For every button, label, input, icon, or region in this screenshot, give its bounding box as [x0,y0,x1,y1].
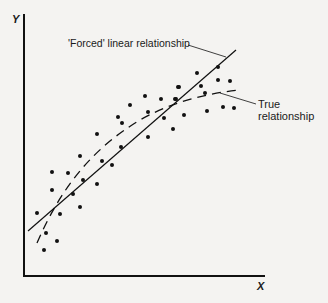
data-point [159,97,163,101]
data-point [173,97,177,101]
data-point [100,159,104,163]
forced-label: 'Forced' linear relationship [68,37,190,49]
data-point [58,212,62,216]
data-point [35,211,39,215]
data-point [95,182,99,186]
data-point [78,205,82,209]
data-point [95,132,99,136]
data-point [110,163,114,167]
y-axis-label: Y [12,13,21,25]
data-point [216,65,220,69]
true-label-line1: True [258,98,280,110]
data-point [66,171,70,175]
true-relationship-curve [37,90,241,243]
data-point [205,109,209,113]
data-point [71,192,75,196]
data-point [116,115,120,119]
data-point [119,145,123,149]
scatter-diagram: Y X 'Forced' linear relationship True re… [0,0,328,303]
forced-linear-line [28,50,236,231]
data-point [42,248,46,252]
forced-leader-line [188,45,226,57]
data-point [50,188,54,192]
data-point [176,85,180,89]
true-leader-line [220,93,256,104]
data-point [55,239,59,243]
data-point [182,113,186,117]
x-axis-label: X [256,280,265,292]
data-point [128,103,132,107]
data-point [171,127,175,131]
data-point [199,84,203,88]
data-point [81,178,85,182]
data-point [50,170,54,174]
true-label-line2: relationship [258,110,314,122]
data-point [203,91,207,95]
data-point [120,121,124,125]
data-point [228,79,232,83]
data-point [146,110,150,114]
data-point [162,116,166,120]
data-point [44,231,48,235]
data-point [232,106,236,110]
data-point [195,71,199,75]
data-point [216,78,220,82]
data-point [221,105,225,109]
data-point [78,154,82,158]
data-point [146,135,150,139]
data-point [143,94,147,98]
data-points [35,65,236,252]
